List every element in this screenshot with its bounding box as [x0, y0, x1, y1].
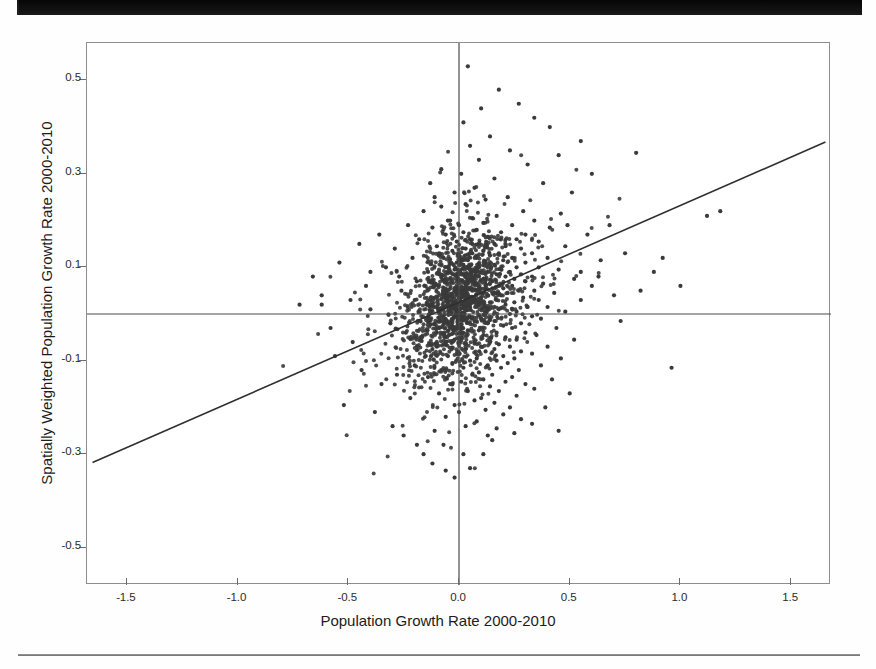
scatter-point [297, 303, 301, 307]
scatter-point [475, 282, 479, 286]
scatter-point [364, 359, 368, 363]
plot-canvas [87, 43, 831, 585]
scatter-point [430, 274, 434, 278]
scatter-point [579, 139, 583, 143]
scatter-point [408, 359, 412, 363]
scatter-point [486, 392, 490, 396]
scatter-point [459, 272, 463, 276]
scatter-point [528, 198, 532, 202]
scatter-point [368, 307, 372, 311]
scatter-point [490, 247, 494, 251]
scatter-point [469, 199, 473, 203]
scatter-point [428, 247, 432, 251]
scatter-point [466, 389, 470, 393]
scatter-point [395, 373, 399, 377]
scatter-point [425, 410, 429, 414]
scatter-point [413, 379, 417, 383]
scatter-point [433, 200, 437, 204]
scatter-point [422, 284, 426, 288]
scatter-point [362, 372, 366, 376]
scatter-point [450, 371, 454, 375]
scatter-point [508, 270, 512, 274]
scatter-point [495, 331, 499, 335]
scatter-point [508, 338, 512, 342]
scatter-point [481, 393, 485, 397]
scatter-point [401, 354, 405, 358]
scatter-point [506, 291, 510, 295]
scatter-point [578, 252, 582, 256]
scatter-point [481, 221, 485, 225]
scatter-point [439, 330, 443, 334]
scatter-point [477, 328, 481, 332]
scatter-point [328, 326, 332, 330]
x-tick-label: -0.5 [317, 591, 377, 603]
scatter-point [435, 405, 439, 409]
scatter-point [492, 242, 496, 246]
scatter-point [328, 275, 332, 279]
scatter-points-group [281, 64, 722, 479]
scatter-point [446, 388, 450, 392]
scatter-point [718, 209, 722, 213]
scatter-point [486, 266, 490, 270]
scatter-point [461, 120, 465, 124]
scatter-point [557, 268, 561, 272]
scatter-point [449, 262, 453, 266]
scatter-point [463, 360, 467, 364]
scatter-point [464, 275, 468, 279]
scatter-point [464, 342, 468, 346]
scatter-point [470, 346, 474, 350]
scatter-point [473, 299, 477, 303]
scatter-point [541, 275, 545, 279]
scatter-point [462, 256, 466, 260]
scatter-point [441, 324, 445, 328]
scatter-point [418, 307, 422, 311]
scatter-point [466, 258, 470, 262]
scatter-point [465, 334, 469, 338]
scatter-point [395, 301, 399, 305]
scatter-point [481, 452, 485, 456]
scatter-point [417, 358, 421, 362]
scatter-point [521, 209, 525, 213]
scatter-point [450, 318, 454, 322]
scatter-point [523, 382, 527, 386]
scatter-point [545, 345, 549, 349]
scatter-point [523, 279, 527, 283]
scatter-point [527, 322, 531, 326]
scatter-point [419, 339, 423, 343]
scatter-point [503, 275, 507, 279]
scatter-point [506, 195, 510, 199]
scatter-point [408, 364, 412, 368]
scatter-point [444, 415, 448, 419]
scatter-point [532, 218, 536, 222]
scatter-point [497, 88, 501, 92]
scatter-point [419, 366, 423, 370]
scatter-point [450, 296, 454, 300]
scatter-point [530, 314, 534, 318]
scatter-point [486, 213, 490, 217]
scatter-point [557, 429, 561, 433]
scatter-point [489, 351, 493, 355]
y-tick-label: 0.5 [21, 71, 81, 83]
scatter-point [430, 303, 434, 307]
scatter-point [492, 347, 496, 351]
scatter-point [477, 265, 481, 269]
scatter-point [522, 336, 526, 340]
scatter-point [492, 319, 496, 323]
y-tick-label: -0.1 [21, 352, 81, 364]
scatter-point [464, 246, 468, 250]
scatter-point [441, 256, 445, 260]
scatter-point [669, 366, 673, 370]
scatter-point [377, 232, 381, 236]
scatter-point [559, 211, 563, 215]
scatter-point [519, 321, 523, 325]
y-tick-label: 0.1 [21, 258, 81, 270]
scatter-point [433, 284, 437, 288]
scatter-point [483, 310, 487, 314]
scatter-point [394, 317, 398, 321]
x-tick-mark [679, 578, 680, 585]
scatter-point [434, 260, 438, 264]
scatter-point [499, 235, 503, 239]
scatter-point [372, 358, 376, 362]
scatter-point [523, 316, 527, 320]
scatter-point [444, 251, 448, 255]
